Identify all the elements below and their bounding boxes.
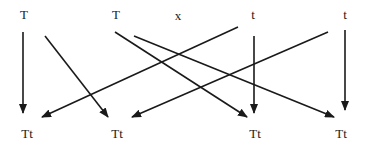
arrow-p2-to-o4 <box>134 36 334 117</box>
arrow-p1-to-o2 <box>45 36 108 117</box>
arrow-p4-to-o2 <box>132 32 328 117</box>
offspring-genotype-1: Tt <box>21 127 33 140</box>
genetic-cross-diagram: T T x t t Tt Tt Tt Tt <box>0 0 369 147</box>
parent-allele-T-2: T <box>112 8 120 21</box>
parent-allele-t-2: t <box>343 8 347 21</box>
parent-allele-T-1: T <box>20 8 28 21</box>
offspring-genotype-3: Tt <box>249 127 261 140</box>
parent-allele-t-1: t <box>251 8 255 21</box>
offspring-genotype-4: Tt <box>335 127 347 140</box>
cross-symbol: x <box>175 9 182 22</box>
arrows-layer <box>0 0 369 147</box>
offspring-genotype-2: Tt <box>111 127 123 140</box>
arrow-p3-to-o1 <box>42 27 238 117</box>
